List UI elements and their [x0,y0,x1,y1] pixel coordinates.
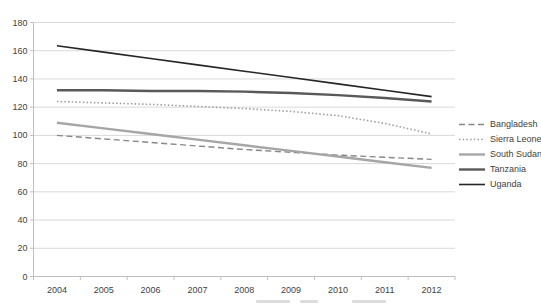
cropped-caption-fragment [352,300,386,303]
y-tick-label: 180 [12,18,27,28]
dotted-line-swatch-icon [459,137,485,142]
legend-label: Uganda [490,177,522,192]
legend-item-bangladesh: Bangladesh [459,117,541,132]
legend-label: South Sudan [490,147,541,162]
y-tick-label: 20 [17,243,27,253]
series-line-south-sudan [57,123,432,168]
x-tick-label: 2006 [141,285,161,295]
legend-item-south-sudan: South Sudan [459,147,541,162]
legend-label: Sierra Leone [490,132,541,147]
x-tick-label: 2004 [47,285,67,295]
y-tick-label: 120 [12,102,27,112]
legend-item-tanzania: Tanzania [459,162,541,177]
y-tick-label: 160 [12,46,27,56]
x-tick-label: 2011 [375,285,394,295]
series-line-uganda [57,46,432,97]
x-tick-label: 2012 [422,285,442,295]
series-line-bangladesh [57,135,432,159]
y-tick-label: 0 [22,272,27,282]
cropped-caption-fragment [300,300,318,303]
x-tick-label: 2010 [328,285,348,295]
solid-line-swatch-icon [459,167,485,172]
solid-line-swatch-icon [459,182,485,187]
legend-item-sierra-leone: Sierra Leone [459,132,541,147]
legend-label: Tanzania [490,162,526,177]
dashed-line-swatch-icon [459,122,485,127]
solid-line-swatch-icon [459,152,485,157]
x-tick-label: 2009 [281,285,301,295]
cropped-caption [0,299,541,305]
x-tick-label: 2005 [94,285,114,295]
legend: BangladeshSierra LeoneSouth SudanTanzani… [459,117,541,192]
y-tick-label: 80 [17,159,27,169]
y-tick-label: 140 [12,74,27,84]
x-tick-label: 2007 [187,285,207,295]
x-tick-label: 2008 [234,285,254,295]
y-tick-label: 60 [17,187,27,197]
y-tick-label: 40 [17,215,27,225]
legend-item-uganda: Uganda [459,177,541,192]
legend-label: Bangladesh [490,117,538,132]
line-chart: 0204060801001201401601802004200520062007… [0,0,541,305]
series-line-tanzania [57,90,432,101]
cropped-caption-fragment [256,300,290,303]
y-tick-label: 100 [12,130,27,140]
